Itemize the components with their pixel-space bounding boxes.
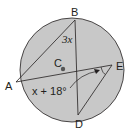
label-a: A [5,80,13,92]
label-e: E [116,60,123,72]
inscribed-angles-diagram: B A E D C 3x x + 18° [0,0,132,130]
label-b: B [71,6,78,18]
angle-label-e: x + 18° [32,85,67,97]
label-c: C [54,57,62,69]
angle-label-b: 3x [61,33,73,45]
label-d: D [75,118,83,130]
